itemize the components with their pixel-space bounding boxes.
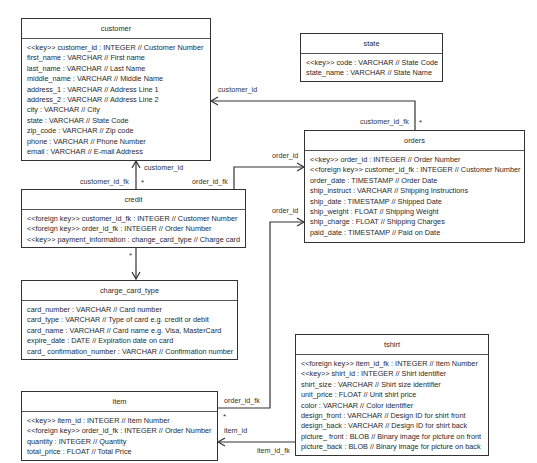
entity-title: state [301, 34, 442, 54]
attribute: picture_ front : BLOB // Binary image fo… [301, 432, 484, 442]
attribute: <<key>> customer_id : INTEGER // Custome… [27, 43, 206, 53]
label-item-orders-source: order_id_fk [224, 396, 260, 405]
label-credit-customer-target: customer_id [144, 163, 183, 172]
attribute: <<key>> item_id : INTEGER // Item Number [27, 416, 213, 426]
entity-tshirt[interactable]: tshirt <<foreign key>> item_id_fk : INTE… [295, 334, 489, 456]
label-credit-customer-source: customer_id_fk [80, 177, 129, 186]
attribute: zip_code : VARCHAR // Zip code [27, 126, 206, 136]
attribute: shirt_size : VARCHAR // Shirt size ident… [301, 380, 484, 390]
attribute: ship_charge : FLOAT // Shipping Charges [310, 217, 520, 227]
attribute: card_type : VARCHAR // Type of card e.g.… [27, 315, 233, 325]
label-item-orders-target: order_id [272, 206, 298, 215]
attribute: address_2 : VARCHAR // Address Line 2 [27, 95, 206, 105]
attribute: unit_price : FLOAT // Unit shirt price [301, 390, 484, 400]
attribute-list: <<foreign key>> item_id_fk : INTEGER // … [296, 355, 488, 455]
attribute: <<foreign key>> item_id_fk : INTEGER // … [301, 359, 484, 369]
entity-customer[interactable]: customer <<key>> customer_id : INTEGER /… [21, 18, 211, 161]
entity-title: charge_card_type [22, 281, 237, 301]
multiplicity-orders-customer: * [419, 118, 422, 127]
attribute-list: <<key>> item_id : INTEGER // Item Number… [22, 412, 217, 460]
link-credit-orders [234, 167, 304, 189]
label-orders-customer-source: customer_id_fk [360, 117, 409, 126]
entity-credit[interactable]: credit <<foreign key>> customer_id_fk : … [21, 189, 246, 248]
attribute: order_date : TIMESTAMP // Order Date [310, 176, 520, 186]
attribute: city : VARCHAR // City [27, 105, 206, 115]
multiplicity-credit-customer: * [141, 178, 144, 187]
label-credit-orders-target: order_id [272, 151, 298, 160]
entity-charge-card-type[interactable]: charge_card_type card_number : VARCHAR /… [21, 280, 238, 360]
entity-state[interactable]: state <<key>> code : VARCHAR // State Co… [300, 33, 443, 82]
attribute: <<foreign key>> order_id_fk : INTEGER //… [27, 426, 213, 436]
entity-title: item [22, 392, 217, 412]
attribute: quantity : INTEGER // Quantity [27, 437, 213, 447]
attribute: state_name : VARCHAR // State Name [306, 68, 438, 78]
attribute: <<foreign key>> order_id_fk : INTEGER //… [27, 224, 241, 234]
attribute: total_price : FLOAT // Total Price [27, 447, 213, 457]
label-tshirt-item-source: item_id_fk [257, 446, 290, 455]
multiplicity-item-orders: * [223, 412, 226, 421]
attribute: color : VARCHAR // Color identifier [301, 401, 484, 411]
attribute: expire_date : DATE // Expiration date on… [27, 336, 233, 346]
attribute: <<foreign key>> customer_id_fk : INTEGER… [27, 214, 241, 224]
attribute: <<key>> shirt_id : INTEGER // Shirt iden… [301, 369, 484, 379]
attribute-list: card_number : VARCHAR // Card number car… [22, 301, 237, 359]
attribute: middle_name : VARCHAR // Middle Name [27, 74, 206, 84]
attribute: ship_weight : FLOAT // Shipping Weight [310, 207, 520, 217]
attribute: <<key>> order_id : INTEGER // Order Numb… [310, 155, 520, 165]
entity-item[interactable]: item <<key>> item_id : INTEGER // Item N… [21, 391, 218, 461]
multiplicity-credit-charge-card-type: * [129, 251, 132, 260]
attribute: picture_back : BLOB // Binary image for … [301, 442, 484, 452]
attribute: email : VARCHAR // E-mail Address [27, 147, 206, 157]
attribute: design_front : VARCHAR // Design ID for … [301, 411, 484, 421]
label-orders-customer-target: customer_id [218, 85, 257, 94]
attribute: ship_date : TIMESTAMP // Shipped Date [310, 197, 520, 207]
attribute: <<foreign key>> customer_id_fk : INTEGER… [310, 165, 520, 175]
attribute: paid_date : TIMESTAMP // Paid on Date [310, 228, 520, 238]
attribute: last_name : VARCHAR // Last Name [27, 64, 206, 74]
attribute-list: <<foreign key>> customer_id_fk : INTEGER… [22, 210, 245, 247]
attribute: <<key>> code : VARCHAR // State Code [306, 58, 438, 68]
entity-title: credit [22, 190, 245, 210]
attribute: first_name : VARCHAR // First name [27, 53, 206, 63]
entity-title: orders [305, 131, 524, 151]
entity-orders[interactable]: orders <<key>> order_id : INTEGER // Ord… [304, 130, 525, 243]
label-tshirt-item-target: item_id [224, 426, 247, 435]
entity-title: tshirt [296, 335, 488, 355]
attribute: state : VARCHAR // State Code [27, 116, 206, 126]
attribute: card_name : VARCHAR // Card name e.g. Vi… [27, 326, 233, 336]
attribute: card_number : VARCHAR // Card number [27, 305, 233, 315]
attribute: card_ confirmation_number : VARCHAR // C… [27, 347, 233, 357]
attribute: design_back : VARCHAR // Design ID for s… [301, 421, 484, 431]
attribute: address_1 : VARCHAR // Address Line 1 [27, 85, 206, 95]
attribute-list: <<key>> order_id : INTEGER // Order Numb… [305, 151, 524, 240]
attribute-list: <<key>> customer_id : INTEGER // Custome… [22, 39, 210, 159]
attribute: ship_instruct : VARCHAR // Shipping Inst… [310, 186, 520, 196]
label-credit-orders-source: order_id_fk [192, 177, 228, 186]
entity-title: customer [22, 19, 210, 39]
attribute-list: <<key>> code : VARCHAR // State Code sta… [301, 54, 442, 81]
attribute: phone : VARCHAR // Phone Number [27, 137, 206, 147]
attribute: <<key>> payment_information : change_car… [27, 235, 241, 245]
